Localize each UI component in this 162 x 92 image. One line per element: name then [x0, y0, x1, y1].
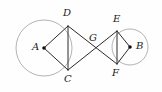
vertex-label-A: A: [32, 42, 39, 52]
vertex-label-G: G: [89, 33, 97, 43]
segment-AD: [44, 26, 68, 48]
segment-AC: [44, 48, 68, 70]
vertex-label-F: F: [112, 68, 119, 78]
vertex-label-B: B: [136, 41, 143, 51]
segment-FB: [117, 47, 130, 64]
center-dot-A: [42, 46, 46, 50]
vertex-dots-group: [42, 45, 132, 50]
vertex-label-C: C: [64, 74, 72, 84]
segments-group: [44, 26, 130, 70]
vertex-label-E: E: [113, 14, 120, 24]
segment-EB: [117, 31, 130, 47]
center-dot-B: [128, 45, 132, 49]
vertex-label-D: D: [63, 8, 71, 18]
geometry-figure: ABCDEFG: [0, 0, 162, 92]
